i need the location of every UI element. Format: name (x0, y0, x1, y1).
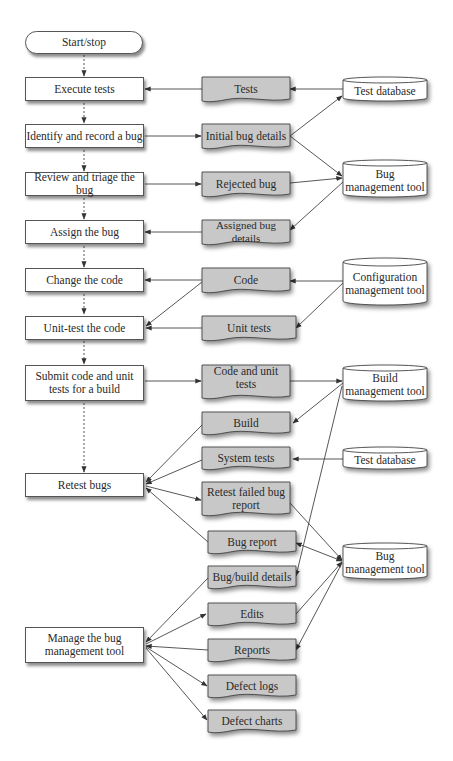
doc-tests: Tests (202, 77, 290, 101)
doc-edits: Edits (208, 603, 296, 625)
bug-mgmt-1-label-line1: Bug (375, 164, 394, 181)
start-stop-terminal: Start/stop (25, 31, 143, 54)
doc-system-tests-label: System tests (215, 452, 276, 465)
datastore-test-database-1: Test database (343, 77, 427, 101)
doc-initial-bug-details-label: Initial bug details (204, 130, 288, 143)
doc-rejected-bug: Rejected bug (202, 172, 290, 196)
doc-code-label: Code (232, 274, 260, 287)
datastore-test-database-2: Test database (343, 447, 427, 469)
review-triage-bug-step: Review and triage the bug (25, 172, 144, 196)
execute-tests-step: Execute tests (25, 77, 144, 101)
doc-bug-build-details: Bug/build details (208, 566, 296, 588)
doc-tests-label: Tests (232, 83, 259, 96)
doc-retest-failed-label-line2: report (230, 499, 261, 512)
doc-defect-logs-label: Defect logs (224, 680, 281, 693)
doc-defect-logs: Defect logs (208, 675, 296, 697)
config-mgmt-label-line1: Configuration (353, 267, 418, 284)
manage-bug-tool-step: Manage the bug management tool (25, 627, 144, 663)
doc-edits-label: Edits (238, 608, 266, 621)
manage-bug-tool-label-line1: Manage the bug (47, 632, 121, 645)
doc-assigned-bug-details: Assigned bug details (202, 220, 290, 244)
bug-mgmt-1-label-line2: management tool (345, 181, 425, 194)
doc-reports: Reports (208, 639, 296, 661)
doc-bug-build-details-label: Bug/build details (211, 571, 294, 584)
doc-assigned-bug-details-label: Assigned bug details (202, 219, 290, 245)
doc-defect-charts-label: Defect charts (220, 715, 285, 728)
unit-test-code-step: Unit-test the code (25, 316, 144, 340)
build-mgmt-label-line1: Build (372, 368, 398, 385)
doc-rejected-bug-label: Rejected bug (214, 178, 278, 191)
manage-bug-tool-label-line2: management tool (45, 645, 125, 658)
bug-mgmt-2-label-line2: management tool (345, 563, 425, 576)
identify-record-bug-label: Identify and record a bug (26, 130, 142, 143)
doc-reports-label: Reports (232, 644, 272, 657)
doc-unit-tests: Unit tests (202, 316, 296, 340)
start-stop-label: Start/stop (62, 36, 106, 49)
doc-retest-failed-bug-report: Retest failed bug report (202, 482, 290, 515)
submit-code-step: Submit code and unit tests for a build (25, 365, 144, 401)
doc-build: Build (202, 412, 290, 434)
execute-tests-label: Execute tests (54, 83, 114, 96)
config-mgmt-label-line2: management tool (345, 284, 425, 297)
assign-bug-step: Assign the bug (25, 220, 144, 244)
doc-retest-failed-label-line1: Retest failed bug (205, 486, 287, 499)
doc-code-and-unit-tests: Code and unit tests (202, 365, 290, 398)
bug-mgmt-2-label-line1: Bug (375, 546, 394, 563)
retest-bugs-step: Retest bugs (25, 473, 144, 497)
datastore-bug-management-tool-2: Bug management tool (343, 543, 427, 579)
flowchart-canvas: Start/stop Execute tests Identify and re… (0, 0, 453, 761)
doc-unit-tests-label: Unit tests (225, 322, 273, 335)
test-database-2-label: Test database (354, 450, 415, 467)
doc-build-label: Build (231, 417, 261, 430)
assign-bug-label: Assign the bug (50, 226, 119, 239)
doc-code-and-unit-tests-label: Code and unit tests (202, 365, 290, 391)
datastore-configuration-management-tool: Configuration management tool (343, 258, 427, 305)
datastore-build-management-tool: Build management tool (343, 365, 427, 401)
doc-bug-report-label: Bug report (225, 536, 279, 549)
change-code-step: Change the code (25, 268, 144, 292)
build-mgmt-label-line2: management tool (345, 385, 425, 398)
retest-bugs-label: Retest bugs (58, 479, 111, 492)
submit-code-label-line2: tests for a build (49, 383, 120, 396)
change-code-label: Change the code (46, 274, 123, 287)
identify-record-bug-step: Identify and record a bug (25, 124, 144, 148)
datastore-bug-management-tool-1: Bug management tool (343, 160, 427, 197)
review-triage-bug-label: Review and triage the bug (26, 171, 143, 197)
doc-code: Code (202, 268, 290, 292)
doc-initial-bug-details: Initial bug details (202, 124, 290, 148)
test-database-1-label: Test database (354, 81, 415, 98)
doc-defect-charts: Defect charts (208, 710, 296, 732)
doc-system-tests: System tests (202, 447, 290, 469)
submit-code-label-line1: Submit code and unit (35, 370, 133, 383)
unit-test-code-label: Unit-test the code (44, 322, 126, 335)
doc-bug-report: Bug report (208, 531, 296, 553)
